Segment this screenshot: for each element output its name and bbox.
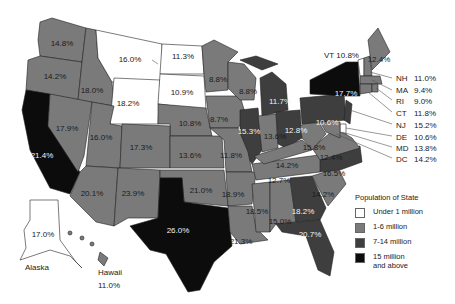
callout-nj: NJ15.2% [396,121,437,130]
callout-de: DE10.6% [396,133,437,142]
label-fl: 20.7% [299,230,322,239]
label-sd: 10.9% [171,88,194,97]
state-fl [276,220,334,276]
label-nv: 17.9% [56,124,79,133]
callout-nh: NH11.0% [396,74,436,83]
label-me: 12.4% [368,55,391,64]
label-ut: 16.0% [90,133,113,142]
state-ct [360,84,372,94]
legend-item-7-14m: 7-14 million [355,237,423,248]
label-ky: 14.2% [276,161,299,170]
state-hi-island [90,242,94,246]
label-in: 13.6% [264,132,287,141]
label-pa: 10.6% [316,118,339,127]
label-az: 20.1% [81,189,104,198]
caption-vt: VT 10.8% [324,51,359,60]
callout-ri: RI9.0% [396,97,432,106]
swatch-white [355,208,365,218]
label-ms: 18.5% [246,207,269,216]
swatch-gray [355,223,365,233]
swatch-dark-gray [355,238,365,248]
label-id: 18.0% [81,86,104,95]
label-mi: 11.7% [269,97,291,106]
label-ar: 18.9% [222,190,245,199]
label-la: 21.3% [230,237,253,246]
state-ri [372,84,378,92]
state-nj [344,100,352,124]
callout-ct: CT11.8% [396,109,436,118]
label-mn: 8.8% [209,75,227,84]
label-oh: 12.8% [285,126,308,135]
label-wa: 14.8% [51,39,74,48]
legend-item-1-6m: 1-6 million [355,222,423,233]
label-tn: 12.7% [268,176,291,185]
label-tx: 26.0% [167,226,190,235]
legend-item-15m-plus: 15 millionand above [355,252,423,270]
label-or: 14.2% [44,72,67,81]
label-ia: 8.7% [210,115,228,124]
caption-hawaii: Hawaii [98,268,122,277]
label-nc: 16.5% [323,169,346,178]
state-me [368,28,390,70]
label-mo: 11.8% [220,151,242,160]
label-ny: 17.7% [335,89,358,98]
label-ne: 10.8% [179,119,202,128]
label-al: 15.0% [269,217,292,226]
legend-title: Population of State [355,193,423,202]
label-ak: 17.0% [32,230,55,239]
label-ga: 18.2% [292,207,315,216]
label-va: 12.4% [320,153,343,162]
state-hi-island [80,236,84,240]
label-sc: 14.2% [312,190,335,199]
label-il: 15.3% [238,127,261,136]
label-wy: 18.2% [117,99,140,108]
label-mt: 16.0% [119,55,142,64]
state-ma [360,76,382,84]
swatch-black [355,253,365,263]
label-hi: 11.0% [98,281,120,290]
state-hi-island [68,231,72,235]
state-hi [98,252,108,266]
label-ks: 13.6% [179,151,202,160]
callout-dc: DC14.2% [396,155,437,164]
caption-alaska: Alaska [25,263,49,272]
callout-ma: MA9.4% [396,86,432,95]
state-mi [260,72,288,116]
label-wv: 15.8% [303,143,326,152]
label-nm: 23.9% [122,189,145,198]
label-ok: 21.0% [190,186,213,195]
callout-md: MD13.8% [396,144,437,153]
label-wi: 8.8% [239,87,257,96]
legend-item-under-1m: Under 1 million [355,207,423,218]
legend: Population of State Under 1 million 1-6 … [355,193,423,274]
label-ca: 21.4% [31,151,54,160]
label-co: 17.3% [130,143,153,152]
label-nd: 11.3% [172,52,194,61]
